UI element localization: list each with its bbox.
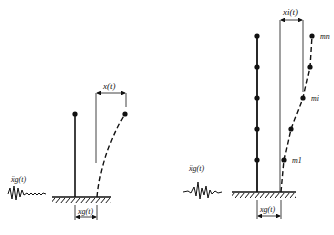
left-deformed-shape	[97, 114, 125, 197]
diagram-canvas: x(t) xg(t) ẍg(t) xi(t)	[0, 0, 334, 235]
left-mass-undeformed	[72, 111, 77, 116]
left-ground-accel-label: ẍg(t)	[10, 175, 26, 184]
right-mass-label-m1: m1	[292, 156, 302, 165]
left-ground-disp-label: xg(t)	[77, 207, 93, 216]
right-mass-4-deformed	[307, 64, 312, 69]
left-excitation-wave-icon	[8, 186, 46, 200]
right-floor-mass-1	[254, 157, 259, 162]
right-floor-mass-2	[254, 126, 259, 131]
right-figure: xi(t) mn mi m1 xg(t) ẍg(t)	[183, 7, 330, 219]
right-ground-disp-label: xg(t)	[259, 205, 275, 214]
right-floor-mass-4	[254, 64, 259, 69]
right-relative-disp-label: xi(t)	[282, 7, 298, 17]
right-mass-2-deformed	[288, 126, 293, 131]
right-floor-mass-3	[254, 95, 259, 100]
right-mass-mn	[309, 33, 314, 38]
right-mass-mi	[300, 95, 305, 100]
left-figure: x(t) xg(t) ẍg(t)	[8, 81, 128, 220]
right-mass-label-mn: mn	[320, 32, 330, 41]
right-floor-mass-5	[254, 33, 259, 38]
right-mass-label-mi: mi	[311, 94, 319, 103]
left-ground	[52, 197, 111, 203]
right-mass-m1	[281, 157, 286, 162]
right-excitation-wave-icon	[183, 182, 222, 199]
left-relative-disp-label: x(t)	[102, 81, 116, 91]
right-ground	[232, 192, 296, 198]
right-deformed-shape	[281, 36, 312, 192]
left-mass-deformed	[122, 111, 127, 116]
right-ground-accel-label: ẍg(t)	[188, 164, 204, 173]
